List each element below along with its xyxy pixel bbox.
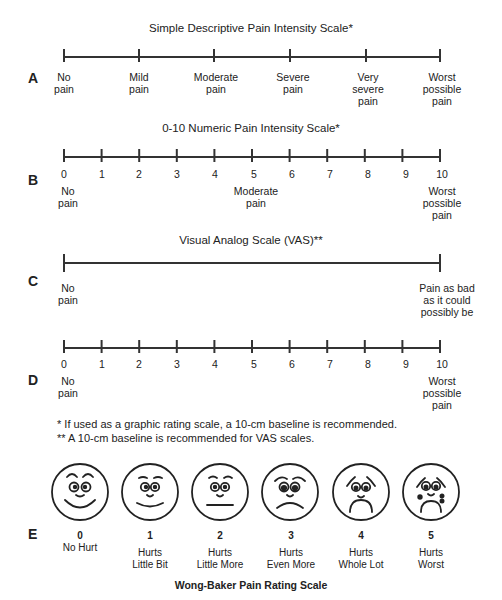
face-hurts-whole-lot-icon xyxy=(333,464,389,520)
face-no-hurt-icon xyxy=(52,464,108,520)
scale-c-title: Visual Analog Scale (VAS)** xyxy=(0,234,502,246)
scale-b-line xyxy=(64,149,440,162)
face-4-number: 4 xyxy=(321,530,401,541)
scale-e-letter: E xyxy=(28,526,37,542)
scale-d-anchor-right: Worst possible pain xyxy=(407,375,477,411)
face-3-label: Hurts Even More xyxy=(251,547,331,571)
scale-e-title: Wong-Baker Pain Rating Scale xyxy=(0,579,502,591)
face-5-number: 5 xyxy=(391,530,471,541)
face-3-number: 3 xyxy=(251,530,331,541)
scale-b-num-1: 1 xyxy=(92,168,112,180)
scale-d-num-3: 3 xyxy=(167,358,187,370)
scale-b-anchor-mid: Moderate pain xyxy=(221,185,291,209)
scale-a-line xyxy=(64,49,440,62)
face-hurts-little-bit-icon xyxy=(122,464,178,520)
scale-b-num-10: 10 xyxy=(432,168,452,180)
scale-b-num-5: 5 xyxy=(244,168,264,180)
face-2-number: 2 xyxy=(180,530,260,541)
face-hurts-even-more-icon xyxy=(262,464,318,520)
scale-d-num-4: 4 xyxy=(205,358,225,370)
scale-b-num-4: 4 xyxy=(205,168,225,180)
scale-a-label-3: Severe pain xyxy=(258,71,328,95)
scale-d-num-9: 9 xyxy=(396,358,416,370)
scale-a-label-5: Worst possible pain xyxy=(407,71,477,107)
scale-c-anchor-left: No pain xyxy=(33,282,103,306)
face-0-label: No Hurt xyxy=(40,542,120,554)
scale-a-label-1: Mild pain xyxy=(104,71,174,95)
footnote-1: * If used as a graphic rating scale, a 1… xyxy=(57,418,397,430)
scale-b-num-6: 6 xyxy=(282,168,302,180)
scale-d-num-6: 6 xyxy=(282,358,302,370)
scale-d-line xyxy=(64,340,440,353)
scale-a-label-0: No pain xyxy=(29,71,99,95)
scale-b-num-7: 7 xyxy=(320,168,340,180)
face-5-label: Hurts Worst xyxy=(391,547,471,571)
scale-b-num-0: 0 xyxy=(54,168,74,180)
scale-b-anchor-right: Worst possible pain xyxy=(407,185,477,221)
scale-d-anchor-left: No pain xyxy=(33,375,103,399)
scale-a-label-2: Moderate pain xyxy=(181,71,251,95)
scale-b-num-3: 3 xyxy=(167,168,187,180)
scale-b-num-8: 8 xyxy=(358,168,378,180)
scale-a-label-4: Very severe pain xyxy=(333,71,403,107)
scale-b-anchor-left: No pain xyxy=(33,185,103,209)
scale-d-num-1: 1 xyxy=(92,358,112,370)
face-2-label: Hurts Little More xyxy=(180,547,260,571)
scale-b-title: 0-10 Numeric Pain Intensity Scale* xyxy=(0,122,502,134)
scale-c-line xyxy=(64,254,440,272)
scale-d-num-0: 0 xyxy=(54,358,74,370)
scale-b-num-9: 9 xyxy=(396,168,416,180)
face-1-number: 1 xyxy=(110,530,190,541)
footnote-2: ** A 10-cm baseline is recommended for V… xyxy=(57,432,314,444)
scale-c-anchor-right: Pain as bad as it could possibly be xyxy=(412,282,482,318)
scale-b-num-2: 2 xyxy=(129,168,149,180)
scale-d-num-8: 8 xyxy=(358,358,378,370)
scale-d-num-2: 2 xyxy=(129,358,149,370)
face-hurts-little-more-icon xyxy=(192,464,248,520)
face-0-number: 0 xyxy=(40,530,120,541)
scale-d-num-10: 10 xyxy=(432,358,452,370)
scale-d-num-7: 7 xyxy=(320,358,340,370)
scale-d-num-5: 5 xyxy=(244,358,264,370)
scale-a-title: Simple Descriptive Pain Intensity Scale* xyxy=(0,22,502,34)
face-hurts-worst-icon xyxy=(403,464,459,520)
face-4-label: Hurts Whole Lot xyxy=(321,547,401,571)
face-1-label: Hurts Little Bit xyxy=(110,547,190,571)
